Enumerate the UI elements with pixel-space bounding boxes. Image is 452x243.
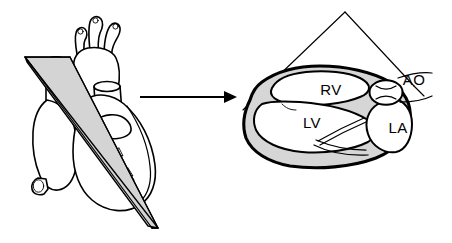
label-lv: LV xyxy=(303,114,321,131)
heart-imaging-plane-figure: RV LV AO LA xyxy=(0,0,452,243)
left-panel-whole-heart xyxy=(25,17,158,228)
inferior-vena-cava xyxy=(32,178,48,195)
label-rv: RV xyxy=(320,81,341,98)
right-panel-cross-section: RV LV AO LA xyxy=(243,12,432,168)
figure-container: RV LV AO LA xyxy=(0,0,452,243)
transform-arrow xyxy=(140,91,237,103)
label-ao: AO xyxy=(403,71,425,88)
label-la: LA xyxy=(388,119,407,136)
